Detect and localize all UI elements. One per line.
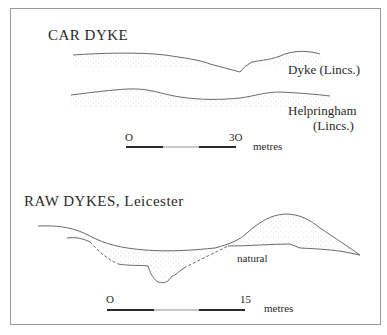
profile-drawing: [0, 0, 387, 335]
profile-2-label-line2: (Lincs.): [313, 118, 354, 134]
car-dyke-profile-1: [73, 51, 322, 72]
natural-annotation: natural: [237, 252, 268, 264]
raw-dykes-title: RAW DYKES, Leicester: [24, 193, 184, 210]
car-dyke-title: CAR DYKE: [48, 27, 128, 44]
scale-bar-15m: [107, 309, 245, 311]
scale-1-end: 3O: [229, 131, 242, 143]
scale-2-unit: metres: [264, 302, 293, 314]
scale-1-unit: metres: [253, 140, 282, 152]
scale-2-start: O: [106, 293, 114, 305]
scale-bar-30m: [126, 146, 236, 148]
scale-1-start: O: [125, 131, 133, 143]
scale-2-end: 15: [240, 293, 251, 305]
profile-2-label-line1: Helpringham: [288, 103, 357, 119]
raw-dykes-profile: [38, 214, 360, 283]
profile-1-label: Dyke (Lincs.): [288, 62, 360, 78]
